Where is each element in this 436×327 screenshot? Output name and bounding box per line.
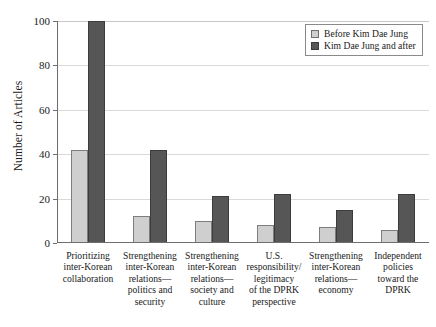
x-axis-label-line: inter-Korean (181, 261, 243, 272)
x-axis-label-line: Strengthening (119, 250, 181, 261)
x-axis-label-line: politics and (119, 284, 181, 295)
x-axis-label-line: relations— (181, 273, 243, 284)
x-axis-label-line: Strengthening (181, 250, 243, 261)
x-axis-label-line: inter-Korean (119, 261, 181, 272)
x-axis-label: Strengtheninginter-Koreanrelations—polit… (119, 250, 181, 307)
y-axis-line (57, 21, 58, 243)
bar-kim-dae-jung-and-after (274, 194, 291, 243)
x-axis-label-line: relations— (119, 273, 181, 284)
bar-before-kim-dae-jung (381, 230, 398, 243)
x-axis-label-line: economy (305, 284, 367, 295)
legend-swatch-icon (311, 42, 319, 50)
x-axis-label-line: of the DPRK (243, 284, 305, 295)
x-axis-labels: Prioritizinginter-KoreancollaborationStr… (57, 250, 429, 327)
legend-item-label: Kim Dae Jung and after (324, 40, 416, 52)
bar-kim-dae-jung-and-after (336, 210, 353, 243)
bar-before-kim-dae-jung (71, 150, 88, 243)
legend-item-label: Before Kim Dae Jung (324, 28, 408, 40)
x-axis-label-line: Independent (367, 250, 429, 261)
x-axis-label-line: responsibility/ (243, 261, 305, 272)
x-axis-label-line: perspective (243, 296, 305, 307)
bar-group (57, 21, 119, 243)
x-axis-label-line: U.S. (243, 250, 305, 261)
legend-item: Before Kim Dae Jung (311, 28, 416, 40)
x-axis-label-line: inter-Korean (57, 261, 119, 272)
bar-chart: Number of Articles 020406080100 Prioriti… (0, 0, 436, 327)
bar-group (119, 21, 181, 243)
x-axis-label-line: Prioritizing (57, 250, 119, 261)
y-axis-title: Number of Articles (12, 66, 24, 186)
bar-before-kim-dae-jung (257, 225, 274, 243)
bar-before-kim-dae-jung (133, 216, 150, 243)
y-tick-mark (53, 243, 57, 244)
x-axis-label-line: toward the (367, 273, 429, 284)
bar-group (181, 21, 243, 243)
bar-before-kim-dae-jung (195, 221, 212, 243)
x-axis-label-line: collaboration (57, 273, 119, 284)
legend-swatch-icon (311, 30, 319, 38)
x-axis-label: Strengtheninginter-Koreanrelations—econo… (305, 250, 367, 296)
bar-before-kim-dae-jung (319, 227, 336, 243)
x-axis-label: Prioritizinginter-Koreancollaboration (57, 250, 119, 284)
legend-item: Kim Dae Jung and after (311, 40, 416, 52)
bar-kim-dae-jung-and-after (398, 194, 415, 243)
bar-kim-dae-jung-and-after (212, 196, 229, 243)
bar-group (243, 21, 305, 243)
bar-kim-dae-jung-and-after (88, 21, 105, 243)
x-axis-label-line: DPRK (367, 284, 429, 295)
x-axis-label-line: society and (181, 284, 243, 295)
x-axis-label: Independentpoliciestoward theDPRK (367, 250, 429, 296)
x-axis-label: U.S.responsibility/legitimacyof the DPRK… (243, 250, 305, 307)
bar-kim-dae-jung-and-after (150, 150, 167, 243)
x-axis-label-line: policies (367, 261, 429, 272)
x-axis-label-line: culture (181, 296, 243, 307)
x-axis-label-line: relations— (305, 273, 367, 284)
x-axis-label-line: Strengthening (305, 250, 367, 261)
x-axis-label-line: inter-Korean (305, 261, 367, 272)
x-axis-label-line: security (119, 296, 181, 307)
x-axis-label-line: legitimacy (243, 273, 305, 284)
x-axis-label: Strengtheninginter-Koreanrelations—socie… (181, 250, 243, 307)
chart-legend: Before Kim Dae JungKim Dae Jung and afte… (305, 24, 423, 56)
x-axis-line (57, 242, 429, 243)
